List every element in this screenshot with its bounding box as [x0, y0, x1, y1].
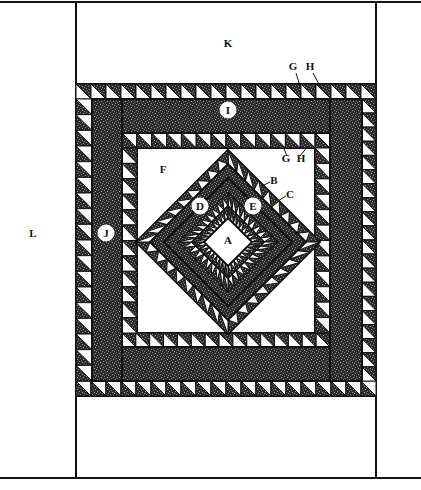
label-A: A [224, 234, 232, 246]
label-K: K [224, 37, 233, 49]
svg-text:J: J [103, 227, 109, 239]
svg-text:G: G [289, 60, 298, 72]
svg-text:G: G [282, 152, 291, 164]
label-E: E [245, 198, 261, 214]
svg-text:H: H [306, 60, 315, 72]
svg-text:H: H [297, 152, 306, 164]
label-H: H [306, 60, 315, 72]
label-G: G [282, 152, 291, 164]
label-D: D [192, 198, 208, 214]
label-H: H [297, 152, 306, 164]
svg-text:F: F [160, 163, 167, 175]
label-B: B [270, 174, 278, 186]
label-F: F [160, 163, 167, 175]
label-L: L [29, 227, 36, 239]
label-G: G [289, 60, 298, 72]
svg-text:I: I [226, 104, 230, 116]
quilt-diagram: KGHIGHFBCDEJLA [0, 0, 421, 490]
svg-text:C: C [286, 188, 294, 200]
svg-text:B: B [270, 174, 278, 186]
svg-text:K: K [224, 37, 233, 49]
svg-text:L: L [29, 227, 36, 239]
label-I: I [220, 102, 236, 118]
svg-text:E: E [249, 200, 256, 212]
svg-text:A: A [224, 234, 232, 246]
label-J: J [98, 225, 114, 241]
svg-text:D: D [196, 200, 204, 212]
label-C: C [286, 188, 294, 200]
